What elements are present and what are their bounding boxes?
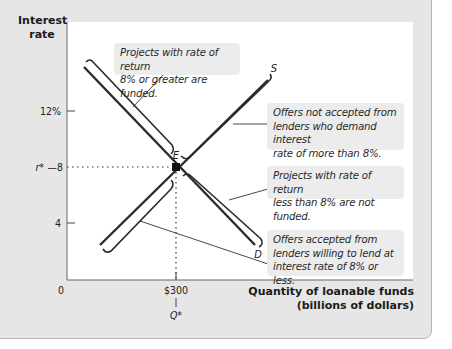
callout-text: lenders who demand interest	[273, 120, 398, 147]
x-axis-title-line-2: (billions of dollars)	[248, 299, 414, 313]
supply-label: S	[271, 62, 277, 75]
y-tick-label-12: 12%	[40, 105, 61, 117]
x-label-qstar: Q*	[170, 309, 182, 321]
y-tick-label-4: 4	[55, 217, 61, 229]
demand-label: D	[254, 248, 262, 261]
y-tick-label-8: —8	[48, 161, 63, 173]
y-axis-title-line-1: Interest	[18, 14, 66, 28]
callout-text: interest rate of 8% or less.	[273, 260, 398, 287]
callout-text: 8% or greater are funded.	[120, 73, 234, 100]
callout-supply-accepted: Offers accepted from lenders willing to …	[267, 230, 404, 276]
y-tick-label-rstar: r*	[35, 161, 44, 173]
x-axis-title: Quantity of loanable funds (billions of …	[248, 285, 414, 313]
y-axis-title: Interest rate	[18, 14, 66, 42]
callout-demand-not-funded: Projects with rate of return less than 8…	[267, 166, 404, 199]
callout-text: less than 8% are not funded.	[273, 196, 398, 223]
x-tick-label-300: $300	[164, 284, 188, 296]
callout-text: Offers not accepted from	[273, 106, 398, 120]
callout-text: Projects with rate of return	[273, 169, 398, 196]
callout-text: lenders willing to lend at	[273, 247, 398, 261]
callout-supply-not-accepted: Offers not accepted from lenders who dem…	[267, 103, 404, 150]
callout-text: Offers accepted from	[273, 233, 398, 247]
callout-text: Projects with rate of return	[120, 46, 234, 73]
equilibrium-point	[172, 163, 180, 171]
origin-label: 0	[58, 284, 64, 296]
callout-demand-funded: Projects with rate of return 8% or great…	[114, 43, 240, 75]
y-axis-title-line-2: rate	[18, 28, 66, 42]
x-axis-title-line-1: Quantity of loanable funds	[248, 285, 414, 299]
equilibrium-label: E	[173, 149, 180, 162]
callout-text: rate of more than 8%.	[273, 147, 398, 161]
